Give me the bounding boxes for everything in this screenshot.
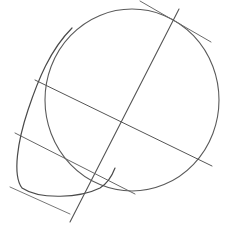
nose-line (15, 133, 135, 194)
sketch-canvas (0, 0, 228, 229)
top-tangent-line (140, 1, 211, 42)
center-axis-line (70, 9, 179, 222)
head-sketch (0, 0, 228, 229)
chin-line (10, 187, 70, 214)
